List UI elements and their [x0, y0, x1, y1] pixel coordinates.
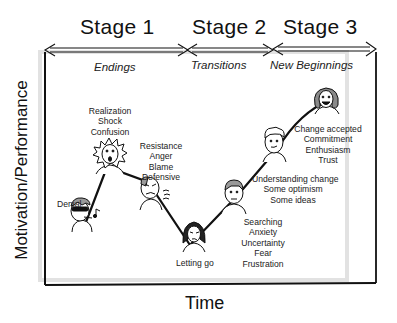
label-shock: Realization Shock Confusion — [83, 106, 137, 137]
label-line: Understanding change — [252, 174, 334, 184]
x-axis — [45, 283, 376, 285]
x-axis-label: Time — [185, 293, 224, 314]
letting-go-face-icon — [183, 222, 205, 252]
label-denial: Denial — [57, 199, 81, 209]
label-line: Change accepted — [292, 124, 364, 134]
label-resistance: Resistance Anger Blame Defensive — [136, 141, 186, 183]
understanding-face-icon — [263, 127, 286, 162]
label-understanding: Understanding change Some optimism Some … — [252, 174, 334, 205]
label-line: Letting go — [176, 258, 214, 268]
label-letting-go: Letting go — [176, 258, 214, 268]
label-line: Commitment — [292, 134, 364, 144]
label-line: Anxiety — [236, 227, 290, 237]
searching-face-icon — [221, 180, 246, 214]
shock-face-icon — [93, 138, 127, 174]
label-line: Anger — [136, 151, 186, 161]
stage-3-heading: Stage 3 — [283, 15, 358, 39]
label-line: Some optimism — [252, 184, 334, 194]
phase-endings-label: Endings — [94, 61, 136, 73]
label-line: Some ideas — [252, 195, 334, 205]
label-line: Resistance — [136, 141, 186, 151]
phase-new-beginnings-label: New Beginnings — [270, 59, 353, 71]
label-searching: Searching Anxiety Uncertainty Fear Frust… — [236, 217, 290, 269]
label-line: Realization — [83, 106, 137, 116]
label-line: Shock — [83, 116, 137, 126]
phase-transitions-label: Transitions — [191, 59, 246, 71]
label-line: Fear — [236, 248, 290, 258]
stage-1-heading: Stage 1 — [80, 15, 155, 39]
label-acceptance: Change accepted Commitment Enthusiasm Tr… — [292, 124, 364, 166]
y-axis-label: Motivation/Performance — [12, 70, 32, 270]
stage-2-heading: Stage 2 — [192, 15, 267, 39]
label-line: Trust — [292, 155, 364, 165]
acceptance-face-icon — [314, 88, 339, 114]
label-line: Defensive — [136, 172, 186, 182]
label-line: Searching — [236, 217, 290, 227]
label-line: Blame — [136, 162, 186, 172]
label-line: Frustration — [236, 259, 290, 269]
label-line: Enthusiasm — [292, 145, 364, 155]
label-line: Confusion — [83, 127, 137, 137]
label-line: Denial — [57, 199, 81, 209]
label-line: Uncertainty — [236, 238, 290, 248]
